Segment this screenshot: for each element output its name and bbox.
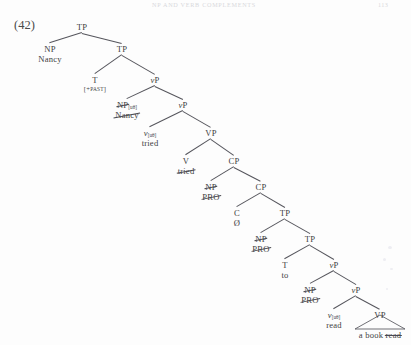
tree-branch (95, 54, 122, 74)
node-category: CP (256, 182, 267, 192)
node-category: NP (202, 182, 219, 192)
tree-node-v1: Vtried (178, 156, 195, 176)
node-category: V (178, 156, 195, 166)
triangle-text-plain: a book (359, 330, 383, 340)
tree-branch (234, 167, 261, 182)
node-feature: [uθ] (332, 314, 341, 320)
scan-artifact (383, 258, 386, 261)
node-category: v[uθ] (142, 128, 159, 138)
node-category: VP (205, 128, 216, 138)
tree-node-tp4: TP (305, 234, 315, 244)
tree-node-vp2: vP (179, 100, 188, 110)
node-category: vP (352, 285, 361, 295)
tree-node-t1: T[+PAST] (84, 75, 107, 93)
node-category: v[uθ] (326, 310, 342, 320)
tree-node-vp2: VP (374, 310, 385, 320)
node-category: vP (151, 75, 160, 85)
triangle-content: a book read (359, 330, 401, 340)
triangle-text-struck: read (386, 330, 402, 340)
tree-node-cpbar: CP (256, 182, 267, 192)
node-category: C (234, 208, 240, 218)
node-feature: [uθ] (128, 104, 137, 110)
tree-branch (310, 245, 334, 260)
node-lexical-item: read (326, 320, 342, 330)
tree-node-cp1: CP (229, 156, 240, 166)
tree-node-c1: CØ (234, 208, 240, 228)
running-head-title: NP AND VERB COMPLEMENTS (152, 1, 256, 8)
tree-branch (150, 110, 183, 127)
document-page: NP AND VERB COMPLEMENTS 113 (42) a book … (0, 0, 411, 345)
tree-branch (334, 271, 356, 285)
tree-branch (285, 219, 310, 234)
node-category: TP (117, 44, 127, 54)
node-category: TP (280, 208, 290, 218)
example-number: (42) (14, 18, 35, 33)
tree-node-np3: NPPRO (202, 182, 219, 202)
tree-branch (261, 193, 285, 208)
node-category: NP (252, 234, 269, 244)
node-category: VP (374, 310, 385, 320)
tree-branch (186, 138, 211, 155)
tree-node-t2: Tto (281, 260, 288, 280)
node-category: vP (330, 260, 339, 270)
tree-node-np4: NPPRO (252, 234, 269, 254)
tree-branch (127, 85, 155, 99)
node-lexical-item: tried (178, 166, 195, 176)
tree-branch (50, 32, 82, 43)
tree-node-tp1: TP (77, 22, 87, 32)
node-category: CP (229, 156, 240, 166)
node-category: TP (77, 22, 87, 32)
tree-branch (211, 166, 234, 181)
tree-node-v1: v[uθ]tried (142, 128, 159, 148)
tree-branch (334, 295, 356, 309)
page-number: 113 (378, 1, 388, 8)
tree-branch (237, 192, 261, 207)
tree-node-v2: v[uθ]read (326, 310, 342, 330)
tree-node-vp1: VP (205, 128, 216, 138)
tree-node-tp2: TP (117, 44, 127, 54)
tree-node-np2: NP[uθ]Nancy (115, 100, 138, 120)
tree-node-np1: NPNancy (38, 44, 61, 64)
node-lexical-item: PRO (252, 244, 269, 254)
tree-branch (183, 111, 211, 128)
node-lexical-item: Ø (234, 218, 240, 228)
tree-node-vp3: vP (330, 260, 339, 270)
node-lexical-item: Nancy (115, 110, 138, 120)
node-category: NP (38, 44, 61, 54)
node-lexical-item: PRO (301, 295, 318, 305)
node-category: T (281, 260, 288, 270)
node-category: NP (301, 285, 318, 295)
tree-branch (155, 86, 183, 100)
tree-branch (261, 218, 285, 233)
node-feature: [uθ] (148, 132, 157, 138)
tree-branch (356, 296, 380, 310)
node-lexical-item: to (281, 270, 288, 280)
tree-node-vp4: vP (352, 285, 361, 295)
tree-branch (310, 270, 334, 284)
scan-artifact (386, 288, 388, 290)
node-category: T (84, 75, 107, 85)
tree-branch (285, 244, 310, 259)
scan-artifact (390, 268, 393, 270)
node-lexical-item: PRO (202, 192, 219, 202)
node-category: vP (179, 100, 188, 110)
tree-branch (82, 33, 122, 44)
node-lexical-item: [+PAST] (84, 85, 107, 93)
tree-branch (122, 55, 155, 75)
scan-artifact (388, 246, 392, 249)
tree-branch (211, 139, 234, 156)
node-lexical-item: tried (142, 138, 159, 148)
node-category: NP[uθ] (115, 100, 138, 110)
tree-node-np5: NPPRO (301, 285, 318, 305)
tree-node-tp3: TP (280, 208, 290, 218)
tree-node-vp1: vP (151, 75, 160, 85)
node-lexical-item: Nancy (38, 54, 61, 64)
node-category: TP (305, 234, 315, 244)
